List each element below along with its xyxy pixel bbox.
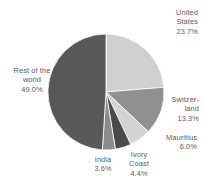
pie-slice-united-states bbox=[106, 34, 164, 92]
slice-label-mauritius: Mauritius 6.0% bbox=[166, 133, 197, 152]
slice-label-ivory-coast: Ivory Coast 4.4% bbox=[122, 150, 156, 178]
pie-slice-group bbox=[48, 34, 164, 150]
slice-label-india: India 3.6% bbox=[88, 155, 118, 174]
slice-label-rest-of-world: Rest of the world 49.0% bbox=[3, 66, 61, 94]
slice-label-switzerland: Switzer- land 13.3% bbox=[172, 95, 200, 123]
slice-label-united-states: United States 23.7% bbox=[176, 8, 198, 36]
pie-chart-figure: United States 23.7% Switzer- land 13.3% … bbox=[0, 0, 203, 188]
